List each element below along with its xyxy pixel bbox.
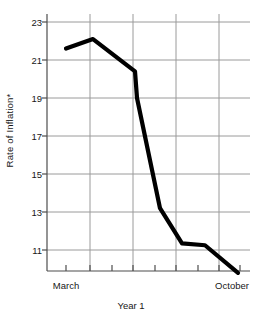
data-series-line — [66, 39, 238, 273]
x-axis-ticks — [66, 265, 240, 271]
inflation-line-chart: Rate of Inflation* 23 21 19 17 15 13 11 — [0, 0, 262, 323]
horizontal-gridlines — [47, 22, 250, 250]
x-tick-label-october: October — [215, 280, 249, 291]
x-axis-title: Year 1 — [0, 300, 262, 311]
y-axis-ticks — [42, 22, 47, 250]
x-tick-label-march: March — [53, 280, 79, 291]
plot-area — [0, 0, 262, 323]
